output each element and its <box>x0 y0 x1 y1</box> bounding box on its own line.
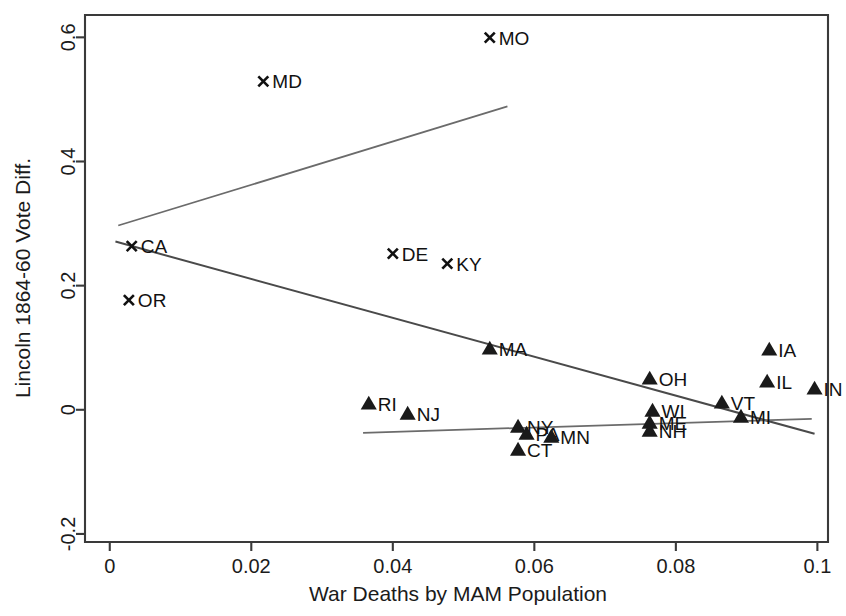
data-point-label: MD <box>272 71 302 92</box>
data-point-label: OH <box>659 369 688 390</box>
data-point-marker-triangle <box>642 371 658 385</box>
data-point-marker-x <box>124 295 134 305</box>
y-axis-title: Lincoln 1864-60 Vote Diff. <box>11 158 34 398</box>
data-point-marker-triangle <box>361 396 377 410</box>
data-point-marker-triangle <box>759 374 775 388</box>
x-tick-label: 0.1 <box>803 555 831 577</box>
data-point-label: CA <box>141 236 168 257</box>
data-point-label: NJ <box>417 404 440 425</box>
axis-titles-group: War Deaths by MAM Population Lincoln 186… <box>11 158 607 605</box>
y-tick-label: 0.6 <box>57 23 79 51</box>
data-point-marker-triangle <box>510 442 526 456</box>
plot-border <box>85 15 828 542</box>
data-point-label: IA <box>778 340 796 361</box>
data-point-label: MI <box>750 407 771 428</box>
data-point-label: OR <box>138 290 167 311</box>
data-point-marker-x <box>388 249 398 259</box>
data-markers-group: MOMDKYDECAORIAILINOHMAVTMIWIMENHRINJNYPA… <box>124 28 843 461</box>
scatter-chart-figure: 00.020.040.060.080.1-0.200.20.40.6 MOMDK… <box>0 0 846 616</box>
y-tick-label: 0.4 <box>57 148 79 176</box>
x-tick-label: 0.04 <box>373 555 412 577</box>
data-point-marker-triangle <box>714 395 730 409</box>
data-point-marker-triangle <box>806 381 822 395</box>
y-tick-label: -0.2 <box>57 517 79 551</box>
data-point-marker-triangle <box>400 406 416 420</box>
data-point-marker-x <box>258 76 268 86</box>
data-point-label: KY <box>456 254 482 275</box>
data-point-marker-x <box>442 259 452 269</box>
data-point-label: CT <box>527 440 553 461</box>
data-point-label: IL <box>776 372 792 393</box>
data-point-label: MO <box>499 28 530 49</box>
data-point-marker-triangle <box>510 419 526 433</box>
plot-canvas: 00.020.040.060.080.1-0.200.20.40.6 MOMDK… <box>0 0 846 616</box>
data-point-marker-triangle <box>761 342 777 356</box>
data-point-label: IN <box>824 379 843 400</box>
data-point-label: DE <box>402 244 428 265</box>
data-point-label: MN <box>560 427 590 448</box>
data-point-marker-x <box>485 33 495 43</box>
data-point-label: MA <box>499 339 528 360</box>
y-tick-label: 0.2 <box>57 272 79 300</box>
data-point-label: RI <box>378 394 397 415</box>
x-axis-title: War Deaths by MAM Population <box>309 582 607 605</box>
border-states-fit <box>118 106 507 225</box>
x-tick-label: 0.08 <box>656 555 695 577</box>
data-point-label: NH <box>659 421 686 442</box>
x-tick-label: 0.02 <box>232 555 271 577</box>
x-tick-label: 0.06 <box>515 555 554 577</box>
axes-group: 00.020.040.060.080.1-0.200.20.40.6 <box>57 15 831 577</box>
x-tick-label: 0 <box>104 555 115 577</box>
y-tick-label: 0 <box>57 404 79 415</box>
